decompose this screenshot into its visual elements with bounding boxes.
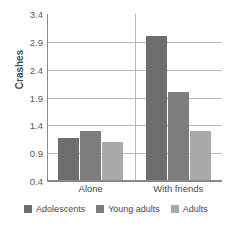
bar-groups [47, 14, 222, 181]
bar-chart: Crashes 3.4 2.9 2.4 1.9 1.4 0.9 0.4 [0, 0, 232, 228]
y-tick-3.4: 3.4 [3, 9, 43, 20]
legend-swatch-young-adults [96, 205, 104, 213]
x-axis-category-labels: Alone With friends [47, 183, 222, 194]
y-tick-2.4: 2.4 [3, 64, 43, 75]
bars-alone [47, 14, 135, 181]
bars-with-friends [135, 14, 223, 181]
plot-area [47, 14, 222, 181]
bar-alone-adolescents[interactable] [58, 138, 79, 181]
category-label-alone: Alone [47, 183, 135, 194]
bar-alone-young-adults[interactable] [80, 131, 101, 181]
y-tick-2.9: 2.9 [3, 36, 43, 47]
legend-label-adults: Adults [183, 204, 208, 214]
category-label-with-friends: With friends [135, 183, 223, 194]
group-with-friends [135, 14, 223, 181]
y-tick-0.9: 0.9 [3, 148, 43, 159]
bar-with-friends-adults[interactable] [190, 131, 211, 181]
y-tick-1.4: 1.4 [3, 120, 43, 131]
y-tick-1.9: 1.9 [3, 92, 43, 103]
legend-swatch-adults [171, 205, 179, 213]
legend-item-young-adults[interactable]: Young adults [96, 204, 160, 214]
legend-label-adolescents: Adolescents [36, 204, 85, 214]
legend-item-adolescents[interactable]: Adolescents [24, 204, 85, 214]
x-axis-line [47, 180, 222, 182]
bar-alone-adults[interactable] [102, 142, 123, 181]
legend-swatch-adolescents [24, 205, 32, 213]
y-axis-tick-labels: 3.4 2.9 2.4 1.9 1.4 0.9 0.4 [0, 14, 43, 181]
group-alone [47, 14, 135, 181]
bar-with-friends-adolescents[interactable] [146, 36, 167, 181]
bar-with-friends-young-adults[interactable] [168, 92, 189, 181]
legend-label-young-adults: Young adults [108, 204, 160, 214]
legend: Adolescents Young adults Adults [0, 204, 232, 214]
y-tick-0.4: 0.4 [3, 176, 43, 187]
legend-item-adults[interactable]: Adults [171, 204, 208, 214]
